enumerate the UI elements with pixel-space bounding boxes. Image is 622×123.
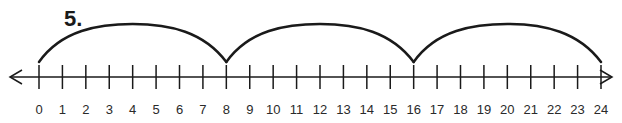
jump-arcs [39,24,601,62]
tick-label: 18 [453,102,467,117]
tick-label: 11 [290,102,304,117]
tick-label: 12 [313,102,327,117]
tick-label: 5 [152,102,159,117]
tick-label: 3 [106,102,113,117]
axis [10,70,612,84]
number-line-diagram: 5. 0123456789101112131415161718192021222… [0,0,622,123]
tick-label: 4 [129,102,136,117]
tick-label: 2 [82,102,89,117]
tick-label: 16 [406,102,420,117]
tick-label: 0 [35,102,42,117]
tick-label: 13 [336,102,350,117]
tick-label: 7 [199,102,206,117]
problem-number: 5. [64,6,82,32]
tick-label: 8 [223,102,230,117]
tick-label: 9 [246,102,253,117]
tick-label: 20 [500,102,514,117]
tick-label: 21 [524,102,538,117]
tick-label: 1 [59,102,66,117]
tick-labels: 0123456789101112131415161718192021222324 [35,102,608,117]
tick-label: 10 [266,102,280,117]
tick-label: 24 [594,102,608,117]
tick-label: 17 [430,102,444,117]
tick-label: 19 [477,102,491,117]
tick-label: 22 [547,102,561,117]
number-line: 0123456789101112131415161718192021222324 [0,0,622,123]
jump-arc [414,24,601,62]
tick-label: 6 [176,102,183,117]
jump-arc [226,24,413,62]
tick-label: 15 [383,102,397,117]
tick-label: 14 [360,102,374,117]
tick-label: 23 [570,102,584,117]
